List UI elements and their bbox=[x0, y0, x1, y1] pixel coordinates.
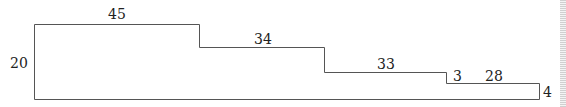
label-top-width: 45 bbox=[108, 7, 126, 21]
label-step4-width: 28 bbox=[485, 69, 503, 83]
shape-outline bbox=[35, 25, 540, 100]
label-step3-width: 33 bbox=[377, 57, 395, 71]
label-left-height: 20 bbox=[10, 56, 28, 70]
label-step4-rise: 3 bbox=[453, 69, 462, 83]
label-right-height: 4 bbox=[543, 85, 552, 99]
stepped-shape bbox=[0, 0, 566, 107]
page-edge-border bbox=[560, 0, 566, 107]
label-step2-width: 34 bbox=[254, 32, 272, 46]
